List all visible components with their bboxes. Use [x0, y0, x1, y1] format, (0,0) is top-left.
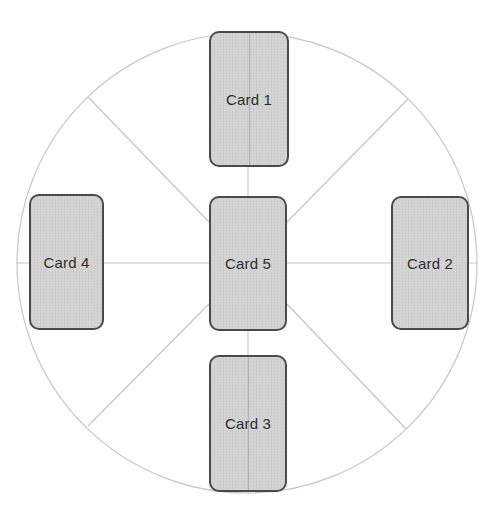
card-1-label: Card 1 — [226, 91, 272, 108]
card-3[interactable]: Card 3 — [209, 355, 287, 492]
card-1[interactable]: Card 1 — [209, 31, 289, 167]
spoke-upper-left — [88, 97, 209, 222]
card-5[interactable]: Card 5 — [209, 196, 287, 331]
card-spread-diagram: Card 1 Card 2 Card 3 Card 4 Card 5 — [0, 0, 490, 515]
card-3-label: Card 3 — [225, 415, 271, 432]
card-2[interactable]: Card 2 — [391, 196, 469, 330]
spoke-lower-left — [88, 304, 209, 426]
spoke-upper-right — [287, 99, 408, 222]
card-2-label: Card 2 — [407, 255, 453, 272]
spoke-lower-right — [287, 304, 406, 429]
card-4[interactable]: Card 4 — [29, 194, 104, 330]
card-5-label: Card 5 — [225, 255, 271, 272]
card-4-label: Card 4 — [43, 254, 89, 271]
